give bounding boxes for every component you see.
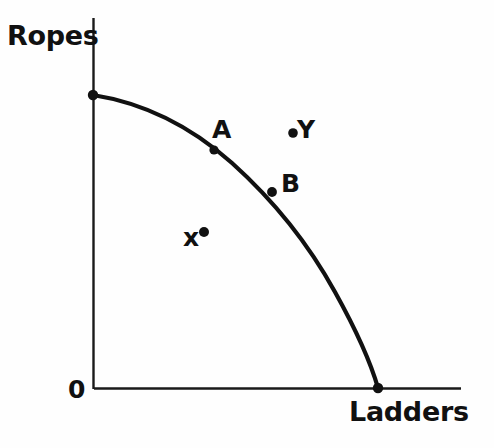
ppf-curve	[93, 95, 378, 388]
x-axis-label: Ladders	[349, 398, 469, 425]
x-intercept-marker	[373, 383, 383, 393]
point-b-label: B	[281, 171, 300, 196]
point-a-label: A	[212, 117, 231, 142]
point-x-label: x	[183, 225, 199, 250]
point-y-label: Y	[297, 117, 315, 142]
ppf-chart-figure: Ropes Ladders 0 A B Y x	[0, 0, 494, 448]
point-x-marker	[199, 227, 209, 237]
point-b-marker	[267, 187, 277, 197]
y-axis-label: Ropes	[7, 22, 99, 49]
origin-label: 0	[68, 377, 85, 402]
point-a-marker	[209, 145, 218, 154]
y-intercept-marker	[88, 90, 98, 100]
